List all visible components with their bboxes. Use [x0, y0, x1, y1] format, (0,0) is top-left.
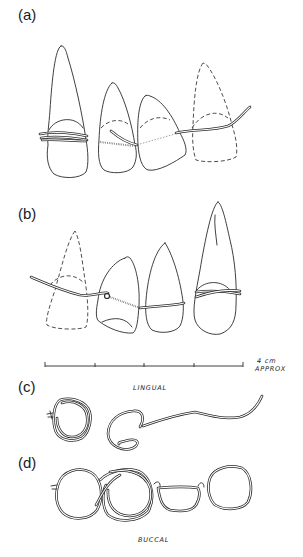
panel-a-drawing: [40, 46, 250, 178]
tooth-b3: [146, 243, 184, 332]
tooth-b1-dashed: [47, 231, 88, 329]
panel-c-drawing: [47, 396, 262, 449]
panel-b-drawing: [31, 202, 240, 334]
tooth-a4-dashed: [193, 63, 237, 162]
tooth-a1: [47, 46, 88, 178]
panel-d-drawing: [51, 466, 251, 520]
scale-bar: [45, 362, 243, 367]
tooth-a2: [99, 83, 137, 173]
figure-drawing: [0, 0, 303, 557]
